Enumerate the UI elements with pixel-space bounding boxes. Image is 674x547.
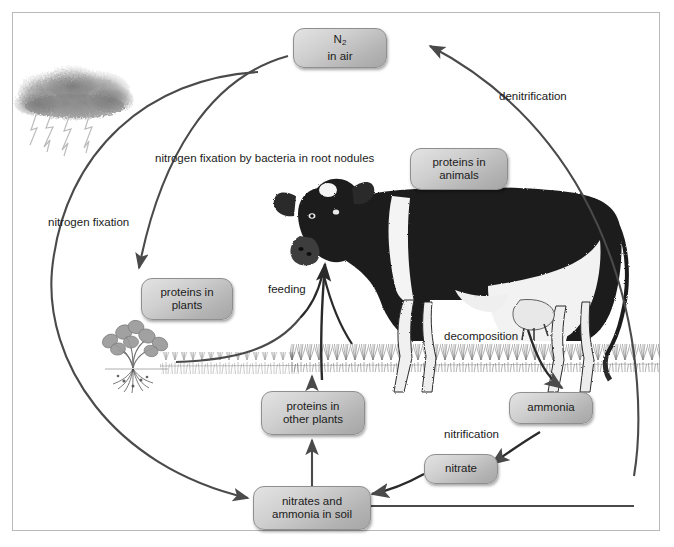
label-line2: other plants — [283, 413, 343, 427]
label-line2: by bacteria in — [239, 152, 307, 164]
label-line1: nitrate — [445, 462, 477, 476]
label-line2: ammonia in soil — [272, 508, 352, 522]
node-ammonia[interactable]: ammonia — [509, 392, 593, 424]
node-proteins-in-plants[interactable]: proteins in plants — [141, 278, 233, 320]
node-n2-line1: N2 — [328, 33, 353, 50]
node-nitrates-and-ammonia-in-soil[interactable]: nitrates and ammonia in soil — [253, 486, 371, 530]
node-n2-in-air[interactable]: N2 in air — [293, 28, 387, 68]
node-n2-line2: in air — [328, 50, 353, 64]
label-feeding: feeding — [268, 283, 306, 297]
node-nitrate[interactable]: nitrate — [424, 454, 498, 484]
n2-subscript: 2 — [342, 38, 346, 47]
label-nitrogen-fixation: nitrogen fixation — [48, 216, 129, 230]
label-line1: proteins in — [160, 286, 213, 300]
label-line1: nitrates and — [272, 495, 352, 509]
label-line1: ammonia — [527, 401, 574, 415]
label-line1: proteins in — [283, 400, 343, 414]
label-decomposition: decomposition — [444, 330, 518, 344]
label-line2: fixation — [93, 216, 129, 228]
label-line2: plants — [160, 299, 213, 313]
label-line3: root nodules — [311, 152, 374, 164]
label-line1: nitrogen — [48, 216, 90, 228]
nitrogen-cycle-diagram: N2 in air proteins in animals proteins i… — [0, 0, 674, 547]
label-nitrogen-fixation-bacteria: nitrogen fixation by bacteria in root no… — [155, 152, 374, 166]
label-nitrification: nitrification — [444, 428, 499, 442]
label-line1: nitrogen fixation — [155, 152, 236, 164]
label-denitrification: denitrification — [499, 90, 567, 104]
label-line1: proteins in — [432, 156, 485, 170]
node-proteins-in-other-plants[interactable]: proteins in other plants — [261, 391, 365, 435]
label-line2: animals — [432, 169, 485, 183]
node-proteins-in-animals[interactable]: proteins in animals — [410, 148, 508, 190]
